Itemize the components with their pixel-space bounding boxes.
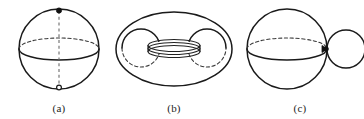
- figure-plate: (a) (b): [0, 0, 364, 119]
- figure-panel-a: (a): [0, 0, 118, 119]
- figure-panel-c: (c): [236, 0, 364, 119]
- figure-caption-a: (a): [0, 102, 118, 115]
- torus-diagram: [110, 2, 238, 96]
- tangency-point-icon: [324, 47, 329, 52]
- south-pole-open-circle-icon: [57, 85, 62, 90]
- figure-caption-b: (b): [110, 102, 238, 115]
- sphere-with-attached-circle-diagram: [236, 2, 364, 96]
- figure-panel-b: (b): [110, 0, 238, 119]
- figure-caption-c: (c): [236, 102, 364, 115]
- sphere-with-axis-diagram: [0, 2, 118, 96]
- north-pole-dot-icon: [56, 8, 61, 13]
